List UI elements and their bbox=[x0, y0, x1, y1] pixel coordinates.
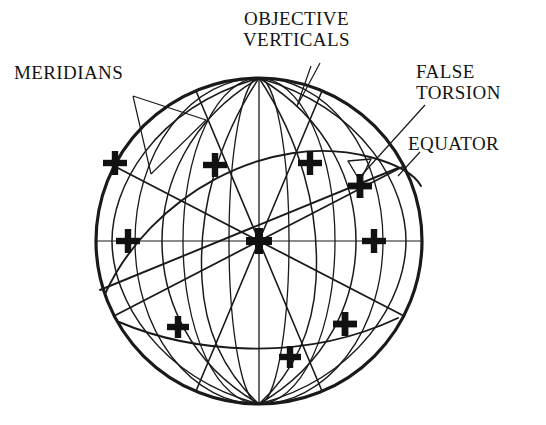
cross-marker bbox=[298, 151, 322, 175]
cross-marker bbox=[279, 346, 301, 368]
label-objective-verticals: OBJECTIVE VERTICALS bbox=[243, 8, 350, 51]
label-meridians: MERIDIANS bbox=[14, 62, 123, 83]
cross-marker bbox=[116, 229, 140, 253]
label-equator-line-1: EQUATOR bbox=[408, 133, 499, 154]
label-objective-verticals-line-1: OBJECTIVE bbox=[243, 8, 350, 29]
cross-marker bbox=[333, 312, 357, 336]
objective-vertical-ssw bbox=[196, 241, 259, 391]
label-false-torsion-line-1: FALSE bbox=[416, 61, 501, 82]
cross-marker bbox=[167, 316, 189, 338]
objective-vertical-sse bbox=[259, 241, 322, 391]
tilted-great-circle-lower bbox=[99, 143, 368, 279]
sphere-diagram-figure: MERIDIANS OBJECTIVE VERTICALS FALSE TORS… bbox=[0, 0, 546, 425]
cross-marker bbox=[348, 174, 372, 198]
label-meridians-line-1: MERIDIANS bbox=[14, 62, 123, 83]
cross-marker-group bbox=[103, 151, 386, 368]
label-false-torsion: FALSE TORSION bbox=[416, 61, 501, 104]
label-objective-verticals-line-2: VERTICALS bbox=[243, 29, 350, 50]
cross-marker-center bbox=[246, 228, 272, 254]
label-false-torsion-line-2: TORSION bbox=[416, 82, 501, 103]
label-equator: EQUATOR bbox=[408, 133, 499, 154]
